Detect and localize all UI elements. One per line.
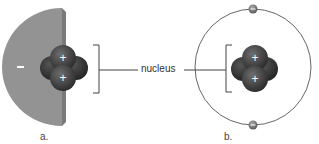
nucleus-label: nucleus bbox=[139, 63, 177, 74]
proton-sign: + bbox=[59, 71, 66, 85]
negative-sign-a bbox=[17, 66, 24, 68]
caption-a: a. bbox=[40, 131, 48, 142]
caption-b: b. bbox=[224, 131, 232, 142]
proton-sign: + bbox=[251, 51, 258, 65]
bracket-a bbox=[93, 45, 99, 93]
proton-sign: + bbox=[59, 51, 66, 65]
nucleus-b: + + bbox=[231, 45, 278, 92]
electron-top bbox=[249, 5, 258, 14]
electron-bottom bbox=[249, 121, 258, 130]
proton-sign: + bbox=[251, 72, 258, 86]
